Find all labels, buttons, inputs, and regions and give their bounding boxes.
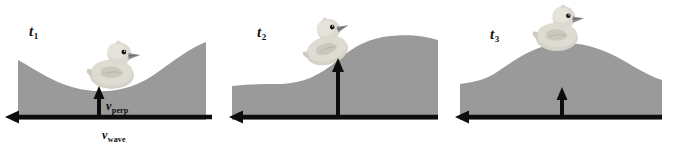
v-perp-label-1: vperp xyxy=(106,97,128,113)
time-label-2: t2 xyxy=(257,25,266,40)
panel-time-1: t1 vperp vwave xyxy=(0,0,224,146)
panel-1-stage xyxy=(0,0,224,146)
time-label-3: t3 xyxy=(490,27,499,42)
wave-duck-figure: t1 vperp vwave xyxy=(0,0,673,146)
v-wave-symbol-1: v xyxy=(102,128,107,142)
panel-time-3: t3 vperp vwave xyxy=(450,0,673,146)
v-wave-subscript-1: wave xyxy=(108,135,126,144)
time-label-2-symbol: t xyxy=(257,24,261,40)
time-label-1-symbol: t xyxy=(29,23,33,39)
panel-2-graphic xyxy=(224,0,450,146)
time-label-3-symbol: t xyxy=(490,26,494,42)
panel-3-stage xyxy=(450,0,673,146)
time-label-3-subscript: 3 xyxy=(495,34,500,44)
time-label-2-subscript: 2 xyxy=(262,32,267,42)
panel-1-graphic xyxy=(0,0,224,146)
v-wave-label-1: vwave xyxy=(102,126,125,142)
duck-icon xyxy=(87,40,141,89)
panel-2-stage xyxy=(224,0,450,146)
panel-time-2: t2 vperp vwave xyxy=(224,0,450,146)
v-perp-symbol-1: v xyxy=(106,99,111,113)
panel-3-graphic xyxy=(450,0,673,146)
time-label-1: t1 xyxy=(29,24,38,39)
time-label-1-subscript: 1 xyxy=(34,31,39,41)
v-perp-subscript-1: perp xyxy=(112,106,128,115)
